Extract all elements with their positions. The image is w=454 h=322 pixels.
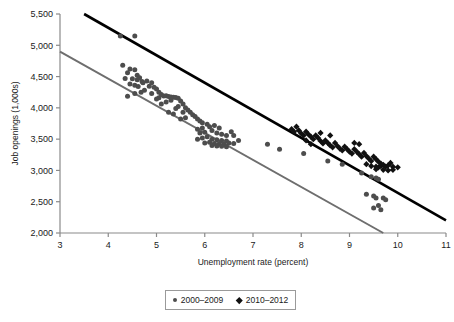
x-tick-label: 5 [154,240,159,250]
data-point-circle [154,97,159,102]
data-point-circle [197,130,202,135]
x-tick-label: 6 [202,240,207,250]
data-point-circle [171,112,176,117]
data-point-circle [123,76,128,81]
data-point-circle [340,162,345,167]
data-point-circle [265,142,270,147]
data-point-circle [159,102,164,107]
data-point-circle [369,174,374,179]
y-tick-label: 2,000 [30,228,53,238]
chart-legend: 2000–2009 2010–2012 [165,290,296,310]
x-tick-label: 8 [299,240,304,250]
data-point-circle [132,91,137,96]
x-tick-label: 9 [347,240,352,250]
legend-label-2000-2009: 2000–2009 [181,295,224,305]
x-tick-label: 7 [250,240,255,250]
data-point-circle [214,144,219,149]
data-point-circle [359,170,364,175]
x-tick-label: 11 [441,240,450,250]
y-tick-label: 2,500 [30,197,53,207]
data-point-circle [120,63,125,68]
data-point-diamond [351,140,357,146]
data-point-circle [202,140,207,145]
data-point-circle [195,137,200,142]
data-point-circle [125,70,130,75]
data-point-circle [219,132,224,137]
trendline-black [84,14,446,220]
data-point-circle [200,120,205,125]
data-point-circle [224,133,229,138]
data-point-circle [164,99,169,104]
y-tick-label: 3,000 [30,166,53,176]
data-point-circle [231,133,236,138]
data-point-circle [209,143,214,148]
data-point-circle [202,130,207,135]
y-axis-label: Job openings (1,000s) [10,81,20,165]
data-point-circle [364,192,369,197]
data-point-circle [168,98,173,103]
data-point-circle [200,125,205,130]
data-point-circle [236,138,241,143]
data-point-circle [149,91,154,96]
data-point-circle [144,78,149,83]
data-point-circle [118,33,123,38]
legend-entry-2010-2012: 2010–2012 [237,295,288,305]
legend-entry-2000-2009: 2000–2009 [173,295,224,305]
data-point-circle [125,94,130,99]
data-point-circle [127,82,132,87]
data-point-circle [374,195,379,200]
y-tick-label: 5,500 [30,9,53,19]
data-point-diamond [356,141,362,147]
diamond-marker-icon [236,297,242,303]
data-point-circle [378,207,383,212]
x-tick-label: 3 [57,240,62,250]
data-point-circle [277,147,282,152]
data-point-circle [130,76,135,81]
data-point-diamond [327,132,333,138]
data-point-circle [224,144,229,149]
data-point-circle [376,203,381,208]
y-tick-label: 3,500 [30,134,53,144]
data-point-circle [205,134,210,139]
circle-marker-icon [173,298,177,302]
y-tick-label: 5,000 [30,41,53,51]
plot-canvas: 2,0002,5003,0003,5004,0004,5005,0005,500… [0,0,454,322]
data-point-circle [183,115,188,120]
x-axis-label: Unemployment rate (percent) [198,257,309,267]
data-point-circle [136,84,141,89]
y-tick-label: 4,000 [30,103,53,113]
data-point-circle [325,159,330,164]
x-tick-label: 10 [393,240,403,250]
data-point-circle [214,130,219,135]
data-point-circle [173,106,178,111]
data-point-circle [132,67,137,72]
y-tick-label: 4,500 [30,72,53,82]
data-point-circle [383,197,388,202]
data-point-circle [149,80,154,85]
data-point-circle [371,205,376,210]
data-point-circle [178,117,183,122]
data-point-circle [200,135,205,140]
data-point-circle [166,110,171,115]
data-point-circle [217,125,222,130]
x-tick-label: 4 [106,240,111,250]
data-point-circle [376,177,381,182]
data-point-circle [219,144,224,149]
data-point-circle [301,151,306,156]
data-point-circle [139,90,144,95]
data-point-circle [231,141,236,146]
data-point-circle [212,123,217,128]
data-point-circle [209,128,214,133]
scatter-chart-figure: 2,0002,5003,0003,5004,0004,5005,0005,500… [0,0,454,322]
legend-label-2010-2012: 2010–2012 [246,295,289,305]
data-point-circle [181,110,186,115]
data-point-circle [132,33,137,38]
